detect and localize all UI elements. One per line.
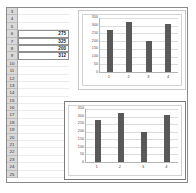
empty-cell[interactable]	[18, 67, 69, 74]
table-row[interactable]: 5	[7, 23, 69, 30]
empty-cell[interactable]	[18, 126, 69, 133]
table-row[interactable]: 11	[7, 67, 69, 74]
table-row[interactable]: 22	[7, 148, 69, 155]
empty-cell[interactable]	[18, 89, 69, 96]
table-row[interactable]: 23	[7, 156, 69, 163]
x-axis-tick-label: 4	[163, 164, 169, 169]
row-header[interactable]: 16	[7, 104, 18, 111]
table-row[interactable]: 6275	[7, 30, 69, 37]
row-header[interactable]: 25	[7, 171, 18, 178]
bar	[95, 120, 101, 162]
table-row[interactable]: 19	[7, 126, 69, 133]
table-row[interactable]: 13	[7, 82, 69, 89]
bar	[146, 41, 152, 72]
row-header[interactable]: 6	[7, 30, 18, 37]
empty-cell[interactable]	[18, 82, 69, 89]
bar	[141, 132, 147, 162]
row-header[interactable]: 14	[7, 89, 18, 96]
row-header[interactable]: 12	[7, 75, 18, 82]
table-row[interactable]: 21	[7, 141, 69, 148]
empty-cell[interactable]	[18, 23, 69, 30]
table-row[interactable]: 3	[7, 8, 69, 15]
row-header[interactable]: 3	[7, 8, 18, 15]
row-header[interactable]: 21	[7, 141, 18, 148]
row-header[interactable]: 19	[7, 126, 18, 133]
row-header[interactable]: 4	[7, 15, 18, 22]
plot-area-bottom	[85, 109, 178, 163]
x-axis-tick-label: 4	[165, 74, 171, 79]
y-axis-tick-label: 150	[78, 138, 84, 142]
bar	[107, 30, 113, 72]
bar-chart-bottom[interactable]: 050100150200250300350 1234	[64, 101, 186, 180]
data-cell[interactable]: 312	[18, 52, 69, 59]
spreadsheet-grid[interactable]: 3456275732582009312101112131415161718192…	[7, 8, 69, 184]
empty-cell[interactable]	[18, 97, 69, 104]
plot-area-top	[99, 18, 178, 73]
row-header[interactable]: 17	[7, 111, 18, 118]
empty-cell[interactable]	[18, 156, 69, 163]
x-axis-tick-label: 2	[126, 74, 132, 79]
table-row[interactable]: 9312	[7, 52, 69, 59]
table-row[interactable]: 16	[7, 104, 69, 111]
x-axis-top: 1234	[99, 74, 178, 83]
row-header[interactable]: 11	[7, 67, 18, 74]
table-row[interactable]: 18	[7, 119, 69, 126]
x-axis-tick-label: 2	[117, 164, 123, 169]
table-row[interactable]: 10	[7, 60, 69, 67]
y-axis-tick-label: 250	[78, 123, 84, 127]
table-row[interactable]: 15	[7, 97, 69, 104]
data-cell[interactable]: 200	[18, 45, 69, 52]
data-cell[interactable]: 275	[18, 30, 69, 37]
row-header[interactable]: 9	[7, 52, 18, 59]
empty-cell[interactable]	[18, 141, 69, 148]
y-axis-tick-label: 250	[92, 32, 98, 36]
x-axis-bottom: 1234	[85, 164, 178, 173]
row-header[interactable]: 15	[7, 97, 18, 104]
empty-cell[interactable]	[18, 75, 69, 82]
table-row[interactable]: 4	[7, 15, 69, 22]
table-row[interactable]: 25	[7, 171, 69, 178]
bar-chart-top[interactable]: 050100150200250300350 1234	[78, 10, 186, 90]
chart-plot-frame-bottom: 050100150200250300350 1234	[68, 105, 182, 176]
y-axis-tick-label: 200	[78, 130, 84, 134]
table-row[interactable]: 14	[7, 89, 69, 96]
row-header[interactable]: 13	[7, 82, 18, 89]
row-header[interactable]: 7	[7, 38, 18, 45]
empty-cell[interactable]	[18, 163, 69, 170]
empty-cell[interactable]	[18, 104, 69, 111]
x-axis-tick-label: 3	[145, 74, 151, 79]
table-row[interactable]: 17	[7, 111, 69, 118]
y-axis-top: 050100150200250300350	[84, 18, 99, 73]
empty-cell[interactable]	[18, 119, 69, 126]
empty-cell[interactable]	[18, 171, 69, 178]
row-header[interactable]: 5	[7, 23, 18, 30]
empty-cell[interactable]	[18, 148, 69, 155]
table-row[interactable]: 24	[7, 163, 69, 170]
table-row[interactable]: 20	[7, 134, 69, 141]
bar-series-bottom	[86, 109, 178, 162]
y-axis-tick-label: 300	[78, 115, 84, 119]
empty-cell[interactable]	[18, 111, 69, 118]
y-axis-bottom: 050100150200250300350	[70, 109, 85, 163]
row-header[interactable]: 22	[7, 148, 18, 155]
empty-cell[interactable]	[18, 8, 69, 15]
table-row[interactable]: 7325	[7, 38, 69, 45]
y-axis-tick-label: 100	[78, 146, 84, 150]
y-axis-tick-label: 0	[82, 161, 84, 165]
data-cell[interactable]: 325	[18, 38, 69, 45]
chart-plot-frame-top: 050100150200250300350 1234	[82, 14, 182, 86]
bar	[126, 22, 132, 72]
row-header[interactable]: 23	[7, 156, 18, 163]
empty-cell[interactable]	[18, 15, 69, 22]
y-axis-tick-label: 50	[94, 63, 98, 67]
row-header[interactable]: 24	[7, 163, 18, 170]
y-axis-tick-label: 150	[92, 48, 98, 52]
row-header[interactable]: 8	[7, 45, 18, 52]
empty-cell[interactable]	[18, 60, 69, 67]
table-row[interactable]: 12	[7, 75, 69, 82]
row-header[interactable]: 20	[7, 134, 18, 141]
row-header[interactable]: 10	[7, 60, 18, 67]
empty-cell[interactable]	[18, 134, 69, 141]
table-row[interactable]: 8200	[7, 45, 69, 52]
row-header[interactable]: 18	[7, 119, 18, 126]
